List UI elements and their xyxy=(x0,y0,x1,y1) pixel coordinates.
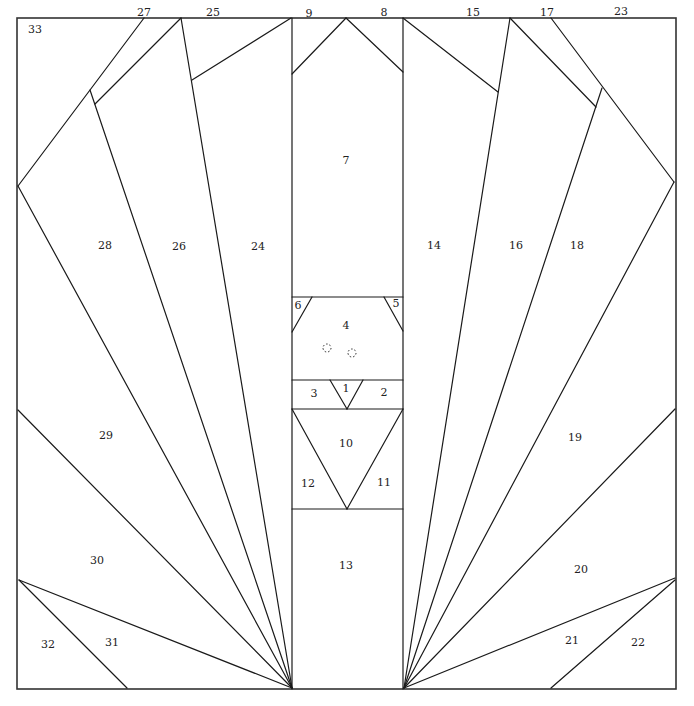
piece-label-32: 32 xyxy=(41,638,55,651)
seam-line-ray-20-21 xyxy=(404,578,675,688)
piece-label-24: 24 xyxy=(251,240,265,253)
seam-line-piece32 xyxy=(19,580,127,688)
piece-label-15: 15 xyxy=(466,6,480,19)
piece-label-4: 4 xyxy=(343,319,350,332)
seam-line-piece17 xyxy=(510,18,596,107)
piece-label-14: 14 xyxy=(427,239,441,252)
quilt-pattern-diagram: 1234567891011121314151617181920212223242… xyxy=(0,0,694,706)
seam-line-piece23 xyxy=(551,18,674,182)
seam-line-piece8 xyxy=(346,18,403,72)
seam-line-ray-30-31 xyxy=(19,580,292,688)
seam-line-ray-16-18 xyxy=(404,88,602,688)
piece-label-17: 17 xyxy=(540,6,554,19)
piece-label-10: 10 xyxy=(339,437,353,450)
dotted-circle-icon xyxy=(348,349,356,357)
piece-label-2: 2 xyxy=(381,386,388,399)
piece-label-20: 20 xyxy=(574,563,588,576)
piece-label-33: 33 xyxy=(28,23,42,36)
block-border xyxy=(17,18,676,689)
piece-label-29: 29 xyxy=(99,429,113,442)
piece-label-23: 23 xyxy=(614,5,628,18)
piece-label-9: 9 xyxy=(306,7,313,20)
seam-line-piece9 xyxy=(292,18,346,74)
seam-line-tri10-r xyxy=(347,409,403,509)
seam-line-tri10-l xyxy=(292,409,347,509)
piece-label-8: 8 xyxy=(381,6,388,19)
piece-label-16: 16 xyxy=(509,239,523,252)
piece-label-21: 21 xyxy=(565,634,579,647)
piece-label-22: 22 xyxy=(631,636,645,649)
piece-label-1: 1 xyxy=(343,382,350,395)
seam-lines xyxy=(18,18,675,689)
piece-label-27: 27 xyxy=(137,6,151,19)
piece-label-13: 13 xyxy=(339,559,353,572)
piece-label-25: 25 xyxy=(206,6,220,19)
piece-label-11: 11 xyxy=(377,476,391,489)
eye-markers xyxy=(323,344,356,357)
piece-label-3: 3 xyxy=(311,387,318,400)
piece-label-7: 7 xyxy=(343,154,350,167)
dotted-circle-icon xyxy=(323,344,331,352)
seam-line-ray-29-30 xyxy=(18,410,292,688)
piece-label-28: 28 xyxy=(98,239,112,252)
seam-line-piece15 xyxy=(403,18,498,92)
piece-label-31: 31 xyxy=(105,636,119,649)
piece-label-30: 30 xyxy=(90,554,104,567)
piece-label-6: 6 xyxy=(295,299,302,312)
piece-label-18: 18 xyxy=(570,239,584,252)
seam-line-piece27 xyxy=(95,18,181,104)
seam-line-ray-26-28 xyxy=(90,90,292,688)
seam-line-piece25 xyxy=(192,18,291,80)
piece-label-5: 5 xyxy=(393,297,400,310)
piece-label-19: 19 xyxy=(568,431,582,444)
piece-label-12: 12 xyxy=(301,477,315,490)
piece-number-labels: 1234567891011121314151617181920212223242… xyxy=(28,5,645,651)
piece-label-26: 26 xyxy=(172,240,186,253)
seam-line-piece33 xyxy=(18,18,144,186)
